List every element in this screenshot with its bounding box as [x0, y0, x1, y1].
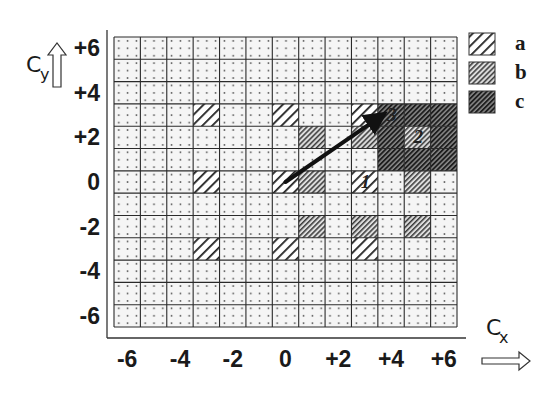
x-axis-label: C x — [482, 315, 530, 370]
cell-a — [272, 238, 298, 260]
y-axis-ticks: +6+4+20-2-4-6 — [74, 35, 100, 329]
cell-b — [299, 126, 325, 148]
x-tick-label: -6 — [117, 346, 137, 372]
y-tick-label: 0 — [87, 169, 100, 195]
legend-item-b: b — [469, 60, 527, 84]
x-axis-label-sub: x — [499, 328, 508, 347]
cell-c — [404, 149, 430, 171]
legend-label: a — [515, 31, 526, 55]
y-tick-label: -6 — [80, 303, 100, 329]
grid-diagram: 123 -6-4-20+2+4+6 +6+4+20-2-4-6 C y C x … — [0, 0, 558, 400]
x-tick-label: +4 — [378, 346, 404, 372]
cell-c — [431, 104, 457, 126]
arrow-up-icon — [48, 43, 66, 87]
cell-c — [378, 149, 404, 171]
legend: abc — [469, 31, 527, 113]
cell-c — [431, 126, 457, 148]
y-axis-label: C y — [26, 43, 66, 87]
cell-annotation: 3 — [386, 104, 397, 125]
cell-annotation: 1 — [361, 171, 371, 192]
legend-label: b — [515, 60, 527, 84]
cell-b — [404, 171, 430, 193]
cell-a — [193, 104, 219, 126]
y-tick-label: -2 — [80, 214, 100, 240]
legend-swatch — [469, 33, 495, 55]
cell-c — [431, 149, 457, 171]
cell-a — [272, 104, 298, 126]
x-tick-label: -4 — [170, 346, 191, 372]
y-axis-label-sub: y — [40, 65, 49, 84]
cell-a — [351, 238, 377, 260]
cell-b — [351, 215, 377, 237]
cell-a — [193, 171, 219, 193]
legend-item-c: c — [469, 89, 524, 113]
cell-b — [404, 215, 430, 237]
x-tick-label: +6 — [431, 346, 457, 372]
y-tick-label: +6 — [74, 35, 100, 61]
x-axis-ticks: -6-4-20+2+4+6 — [117, 346, 457, 372]
legend-item-a: a — [469, 31, 526, 55]
x-tick-label: -2 — [223, 346, 243, 372]
legend-label: c — [515, 89, 524, 113]
y-tick-label: +4 — [74, 80, 100, 106]
cell-c — [378, 126, 404, 148]
y-tick-label: +2 — [74, 124, 100, 150]
cell-b — [299, 215, 325, 237]
x-tick-label: +2 — [325, 346, 351, 372]
arrow-right-icon — [482, 352, 530, 370]
cell-a — [193, 238, 219, 260]
legend-swatch — [469, 91, 495, 113]
y-tick-label: -4 — [80, 258, 101, 284]
x-tick-label: 0 — [279, 346, 292, 372]
legend-swatch — [469, 62, 495, 84]
cell-b — [299, 171, 325, 193]
cell-c — [404, 104, 430, 126]
cell-annotation: 2 — [412, 126, 423, 147]
